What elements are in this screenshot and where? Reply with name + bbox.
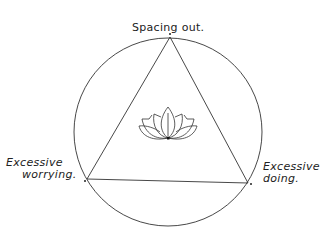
lotus-icon <box>139 107 197 139</box>
label-right-line2: doing. <box>263 173 320 185</box>
label-left-line2: worrying. <box>22 169 77 181</box>
label-excessive-worrying: Excessive worrying. <box>6 157 77 181</box>
diagram-canvas <box>0 0 333 240</box>
label-spacing-out: Spacing out. <box>132 22 204 34</box>
vertex-dot-right <box>250 183 252 185</box>
triangle <box>87 37 248 183</box>
lotus-center-dot <box>167 137 170 140</box>
label-excessive-doing: Excessive doing. <box>263 161 320 185</box>
vertex-dot-left <box>84 180 86 182</box>
